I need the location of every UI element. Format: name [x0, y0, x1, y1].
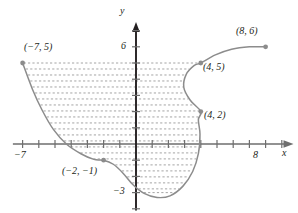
y-axis-label: y — [120, 6, 124, 16]
y-tick-label-6: 6 — [121, 41, 126, 51]
curve-path — [23, 47, 266, 198]
axes-group — [13, 22, 294, 210]
y-tick-label-neg3: −3 — [113, 186, 125, 196]
x-tick-label-8: 8 — [253, 150, 258, 160]
point-label-neg2-neg1: (−2, −1) — [62, 166, 97, 176]
point-label-4-2: (4, 2) — [204, 110, 226, 120]
point-label-8-6: (8, 6) — [236, 26, 258, 36]
x-tick-label-neg7: −7 — [14, 150, 26, 160]
point-label-neg7-5: (−7, 5) — [24, 42, 52, 52]
point-label-4-5: (4, 5) — [203, 62, 225, 72]
region-dashed-fill — [24, 63, 200, 193]
x-axis-label: x — [282, 148, 286, 158]
marked-points-group — [20, 44, 268, 162]
graph-figure: y x −7 8 6 −3 (−7, 5) (8, 6) (4, 5) (4, … — [0, 0, 298, 213]
